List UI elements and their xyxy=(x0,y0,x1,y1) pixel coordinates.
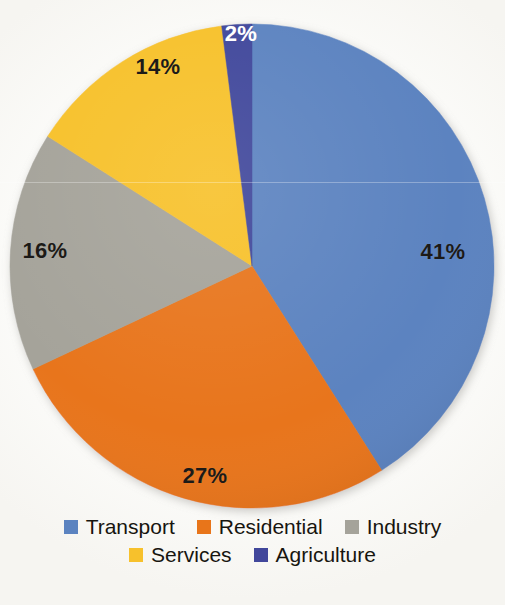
pie-chart: 41%27%16%14%2% xyxy=(0,0,505,520)
legend-swatch-icon xyxy=(254,548,268,562)
legend-swatch-icon xyxy=(64,520,78,534)
pie-slice-label-agriculture: 2% xyxy=(225,21,257,47)
pie-slice-label-transport: 41% xyxy=(421,239,466,265)
pie-sheen-overlay xyxy=(10,24,494,508)
legend-swatch-icon xyxy=(197,520,211,534)
pie-slice-label-services: 14% xyxy=(136,54,181,80)
legend-item-label: Services xyxy=(151,544,232,565)
legend-item-transport[interactable]: Transport xyxy=(64,516,175,537)
pie-slice-label-industry: 16% xyxy=(23,238,68,264)
legend-row: ServicesAgriculture xyxy=(0,544,505,565)
legend-swatch-icon xyxy=(345,520,359,534)
legend-item-label: Transport xyxy=(86,516,175,537)
legend-item-residential[interactable]: Residential xyxy=(197,516,323,537)
legend-item-services[interactable]: Services xyxy=(129,544,232,565)
legend-swatch-icon xyxy=(129,548,143,562)
legend-row: TransportResidentialIndustry xyxy=(0,516,505,537)
legend-item-industry[interactable]: Industry xyxy=(345,516,442,537)
legend-item-label: Agriculture xyxy=(276,544,376,565)
chart-legend: TransportResidentialIndustryServicesAgri… xyxy=(0,516,505,572)
pie-slice-label-residential: 27% xyxy=(183,463,228,489)
legend-item-label: Residential xyxy=(219,516,323,537)
legend-item-label: Industry xyxy=(367,516,442,537)
legend-item-agriculture[interactable]: Agriculture xyxy=(254,544,376,565)
